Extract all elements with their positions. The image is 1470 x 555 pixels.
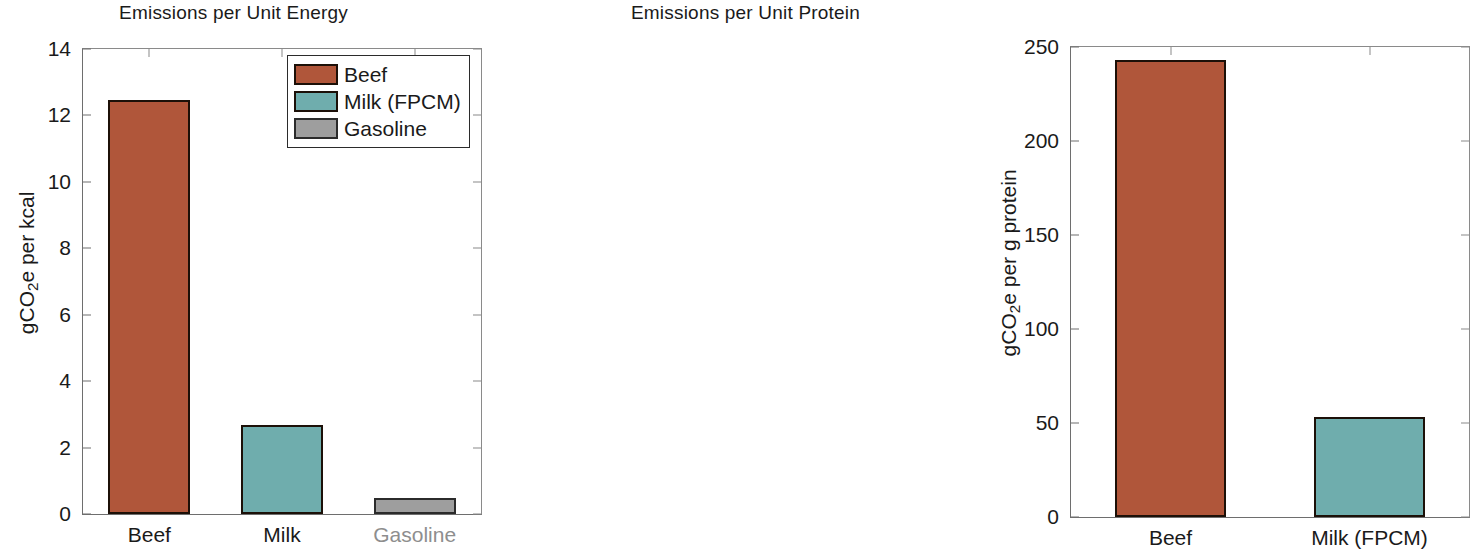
y-tick-mark: [1071, 47, 1079, 48]
y-tick-label: 200: [1024, 129, 1071, 153]
legend-label: Beef: [344, 64, 387, 85]
plot-area-left: 02468101214 BeefMilkGasoline BeefMilk (F…: [82, 48, 482, 515]
y-tick-mark-mirror: [1461, 235, 1469, 236]
x-tick-label: Beef: [128, 523, 171, 547]
y-tick-mark: [83, 381, 91, 382]
y-tick-label: 0: [59, 502, 83, 526]
y-tick-mark-mirror: [473, 314, 481, 315]
y-tick-mark: [83, 514, 91, 515]
y-tick-mark: [83, 314, 91, 315]
y-tick-mark: [1071, 235, 1079, 236]
x-tick-mark: [282, 49, 283, 57]
legend-left[interactable]: BeefMilk (FPCM)Gasoline: [287, 55, 470, 148]
y-tick-mark: [83, 181, 91, 182]
x-tick-mark: [149, 49, 150, 57]
x-tick-mark: [1170, 47, 1171, 55]
chart-title-left: Emissions per Unit Energy: [0, 2, 481, 24]
x-tick-mark: [1369, 47, 1370, 55]
y-axis-label-right-pre: gCO: [997, 313, 1020, 356]
y-tick-mark-mirror: [473, 248, 481, 249]
y-tick-label: 150: [1024, 223, 1071, 247]
legend-label: Milk (FPCM): [344, 91, 461, 112]
y-tick-label: 14: [48, 37, 83, 61]
y-tick-mark: [1071, 329, 1079, 330]
y-tick-label: 6: [59, 303, 83, 327]
x-tick-label: Beef: [1149, 526, 1192, 550]
y-tick-mark-mirror: [473, 514, 481, 515]
y-tick-label: 250: [1024, 35, 1071, 59]
legend-label: Gasoline: [344, 118, 427, 139]
y-axis-label-left-post: e per kcal: [15, 192, 38, 283]
plot-area-right: 050100150200250 BeefMilk (FPCM): [1070, 46, 1470, 518]
y-tick-mark-mirror: [1461, 141, 1469, 142]
y-axis-label-right-post: e per g protein: [997, 169, 1020, 304]
y-tick-mark-mirror: [473, 115, 481, 116]
y-tick-mark-mirror: [1461, 517, 1469, 518]
bar-beef: [108, 100, 190, 514]
y-tick-mark-mirror: [473, 447, 481, 448]
y-tick-label: 10: [48, 170, 83, 194]
x-tick-label: Milk: [263, 523, 300, 547]
legend-swatch-icon: [294, 118, 338, 139]
bar-beef: [1115, 60, 1226, 517]
y-axis-label-right-sub: 2: [1006, 305, 1023, 313]
y-tick-mark-mirror: [473, 381, 481, 382]
y-tick-label: 12: [48, 103, 83, 127]
bar-gasoline: [374, 498, 456, 514]
y-tick-label: 0: [1047, 505, 1071, 529]
y-axis-label-left-sub: 2: [24, 283, 41, 291]
bar-milk: [241, 425, 323, 514]
y-axis-label-left: gCO2e per kcal: [15, 143, 41, 383]
y-tick-mark: [83, 447, 91, 448]
y-tick-mark-mirror: [1461, 329, 1469, 330]
y-tick-label: 50: [1036, 411, 1071, 435]
y-tick-mark: [83, 49, 91, 50]
chart-title-right: Emissions per Unit Protein: [498, 2, 993, 24]
bar-milk-fpcm: [1314, 417, 1425, 517]
y-tick-label: 4: [59, 369, 83, 393]
y-axis-label-right: gCO2e per g protein: [997, 143, 1023, 383]
legend-entry[interactable]: Milk (FPCM): [294, 88, 461, 115]
legend-entry[interactable]: Beef: [294, 61, 461, 88]
y-tick-mark: [83, 248, 91, 249]
y-tick-label: 2: [59, 436, 83, 460]
y-tick-mark-mirror: [1461, 423, 1469, 424]
y-tick-mark: [1071, 141, 1079, 142]
legend-entry[interactable]: Gasoline: [294, 115, 461, 142]
y-tick-mark-mirror: [473, 181, 481, 182]
y-axis-label-left-pre: gCO: [15, 291, 38, 334]
y-tick-label: 8: [59, 236, 83, 260]
y-tick-mark: [1071, 423, 1079, 424]
panel-emissions-per-unit-energy: Emissions per Unit Energy gCO2e per kcal…: [0, 0, 495, 555]
legend-swatch-icon: [294, 91, 338, 112]
x-tick-label: Gasoline: [373, 523, 456, 547]
legend-swatch-icon: [294, 64, 338, 85]
y-tick-mark-mirror: [473, 49, 481, 50]
panel-emissions-per-unit-protein: Emissions per Unit Protein gCO2e per g p…: [492, 0, 987, 555]
y-tick-mark: [1071, 517, 1079, 518]
y-tick-mark: [83, 115, 91, 116]
y-tick-mark-mirror: [1461, 47, 1469, 48]
y-tick-label: 100: [1024, 317, 1071, 341]
x-tick-label: Milk (FPCM): [1311, 526, 1428, 550]
